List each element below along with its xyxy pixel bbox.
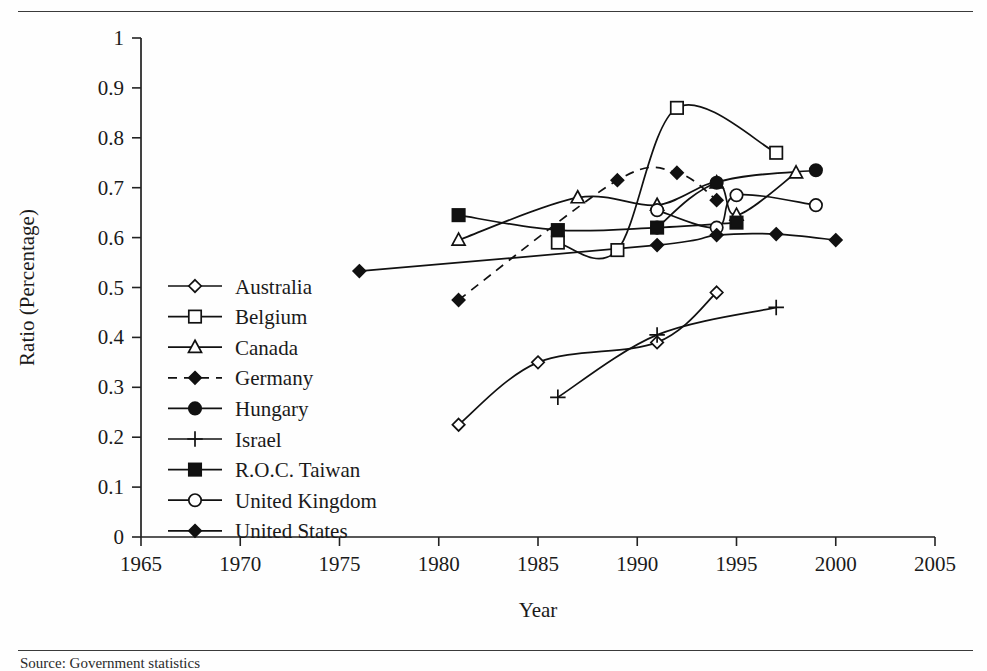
data-point-filled-diamond <box>611 174 623 186</box>
data-point-filled-diamond <box>353 265 365 277</box>
x-tick-label: 2005 <box>914 552 956 576</box>
x-tick-label: 1980 <box>418 552 460 576</box>
data-point-filled-square <box>730 216 742 228</box>
legend-item-belgium[interactable]: Belgium <box>168 305 307 329</box>
legend-label: R.O.C. Taiwan <box>235 458 361 482</box>
chart-legend: AustraliaBelgiumCanadaGermanyHungaryIsra… <box>168 275 377 544</box>
x-tick-label: 1990 <box>616 552 658 576</box>
bottom-divider <box>18 650 973 651</box>
y-axis-title: Ratio (Percentage) <box>15 209 39 366</box>
series-line-united-states <box>359 234 835 271</box>
data-point-filled-circle <box>810 164 822 176</box>
legend-label: United States <box>235 519 348 543</box>
data-point-filled-circle <box>710 177 722 189</box>
data-point-open-circle <box>730 189 742 201</box>
data-point-open-square <box>611 244 623 256</box>
data-point-open-circle <box>651 204 663 216</box>
axes: 00.10.20.30.40.50.60.70.80.9119651970197… <box>98 26 956 576</box>
series-line-germany <box>459 167 717 300</box>
legend-label: Israel <box>235 428 282 452</box>
y-tick-label: 0.3 <box>98 375 124 399</box>
data-point-plus <box>768 300 784 316</box>
x-tick-label: 1995 <box>716 552 758 576</box>
legend-item-canada[interactable]: Canada <box>168 336 299 360</box>
line-chart: 00.10.20.30.40.50.60.70.80.9119651970197… <box>0 0 987 645</box>
legend-label: Germany <box>235 366 314 390</box>
data-point-open-square <box>189 310 201 322</box>
y-tick-label: 0.8 <box>98 126 124 150</box>
data-point-open-circle <box>189 494 201 506</box>
y-tick-label: 0 <box>114 525 125 549</box>
y-tick-label: 0.2 <box>98 425 124 449</box>
y-tick-label: 0.4 <box>98 325 125 349</box>
data-point-filled-square <box>651 221 663 233</box>
data-point-filled-square <box>552 224 564 236</box>
series-markers <box>353 102 842 431</box>
x-tick-label: 1975 <box>319 552 361 576</box>
data-point-open-diamond <box>532 356 544 368</box>
y-tick-label: 0.1 <box>98 475 124 499</box>
x-tick-label: 1965 <box>120 552 162 576</box>
legend-item-hungary[interactable]: Hungary <box>168 397 309 421</box>
data-point-open-diamond <box>189 280 201 292</box>
data-point-filled-diamond <box>189 525 201 537</box>
legend-label: Hungary <box>235 397 309 421</box>
legend-item-germany[interactable]: Germany <box>168 366 314 390</box>
x-axis-title: Year <box>519 598 558 622</box>
data-point-open-circle <box>810 199 822 211</box>
legend-label: United Kingdom <box>235 489 377 513</box>
data-point-filled-circle <box>189 402 201 414</box>
data-point-filled-square <box>452 209 464 221</box>
data-point-filled-diamond <box>830 234 842 246</box>
data-point-open-square <box>671 102 683 114</box>
y-tick-label: 0.6 <box>98 226 124 250</box>
legend-label: Canada <box>235 336 299 360</box>
data-point-plus <box>550 390 566 406</box>
data-point-open-square <box>552 236 564 248</box>
legend-item-united-states[interactable]: United States <box>168 519 348 543</box>
x-tick-label: 1970 <box>219 552 261 576</box>
series-line-belgium <box>558 105 776 259</box>
series-line-australia <box>459 292 717 424</box>
chart-svg: 00.10.20.30.40.50.60.70.80.9119651970197… <box>0 0 987 645</box>
source-note: Source: Government statistics <box>20 655 200 671</box>
x-tick-label: 2000 <box>815 552 857 576</box>
y-tick-label: 0.5 <box>98 276 124 300</box>
legend-label: Belgium <box>235 305 307 329</box>
data-point-filled-diamond <box>651 239 663 251</box>
y-tick-label: 0.7 <box>98 176 124 200</box>
legend-item-israel[interactable]: Israel <box>168 428 282 452</box>
series-lines <box>359 105 835 425</box>
legend-label: Australia <box>235 275 313 299</box>
figure-page: 00.10.20.30.40.50.60.70.80.9119651970197… <box>0 0 987 671</box>
data-point-filled-diamond <box>189 372 201 384</box>
data-point-open-square <box>770 147 782 159</box>
data-point-filled-diamond <box>770 228 782 240</box>
data-point-filled-square <box>189 463 201 475</box>
legend-item-united-kingdom[interactable]: United Kingdom <box>168 489 377 513</box>
y-tick-label: 0.9 <box>98 76 124 100</box>
x-tick-label: 1985 <box>517 552 559 576</box>
y-tick-label: 1 <box>114 26 125 50</box>
data-point-open-triangle <box>188 340 201 352</box>
legend-item-r-o-c-taiwan[interactable]: R.O.C. Taiwan <box>168 458 361 482</box>
data-point-filled-diamond <box>671 167 683 179</box>
data-point-plus <box>187 431 203 447</box>
legend-item-australia[interactable]: Australia <box>168 275 313 299</box>
